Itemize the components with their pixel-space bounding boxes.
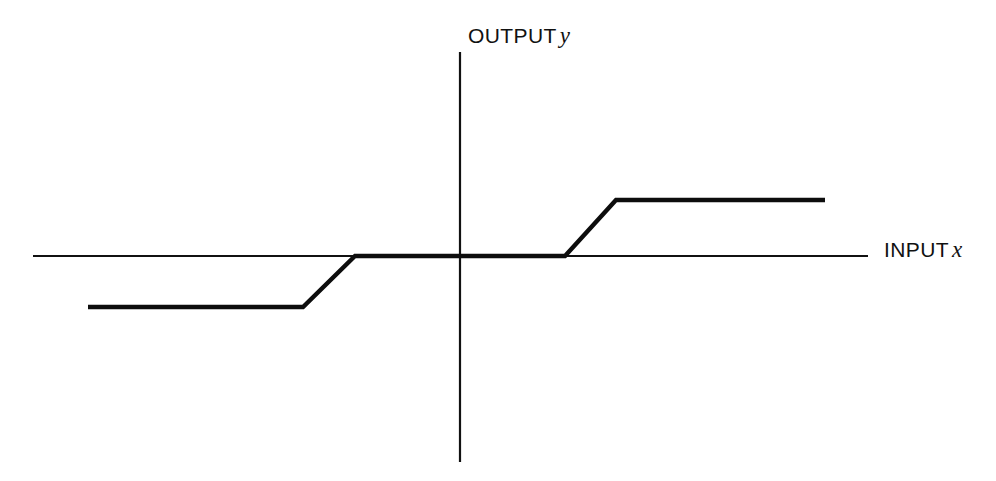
transfer-characteristic-figure: OUTPUTy INPUTx [0,0,996,481]
x-axis-symbol: x [949,237,962,262]
x-axis-label-text: INPUT [884,238,949,261]
y-axis-label: OUTPUTy [468,24,570,47]
figure-background [0,0,996,481]
plot-canvas [0,0,996,481]
y-axis-symbol: y [557,23,570,48]
y-axis-label-text: OUTPUT [468,24,557,47]
x-axis-label: INPUTx [884,238,962,261]
